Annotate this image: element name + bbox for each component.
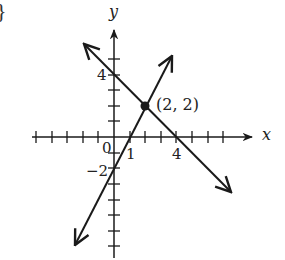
tick-label-y-4: 4 bbox=[97, 68, 107, 83]
x-axis-label: x bbox=[262, 127, 271, 143]
coordinate-graph bbox=[0, 0, 285, 260]
intersection-point bbox=[141, 102, 150, 111]
tick-label-y-neg-2: −2 bbox=[86, 164, 108, 179]
tick-label-x-4: 4 bbox=[172, 147, 182, 162]
tick-label-origin: 0 bbox=[102, 141, 112, 156]
x-axis bbox=[32, 131, 252, 143]
intersection-point-label: (2, 2) bbox=[156, 97, 199, 113]
y-axis-label: y bbox=[109, 4, 118, 20]
tick-label-x-1: 1 bbox=[126, 147, 136, 162]
